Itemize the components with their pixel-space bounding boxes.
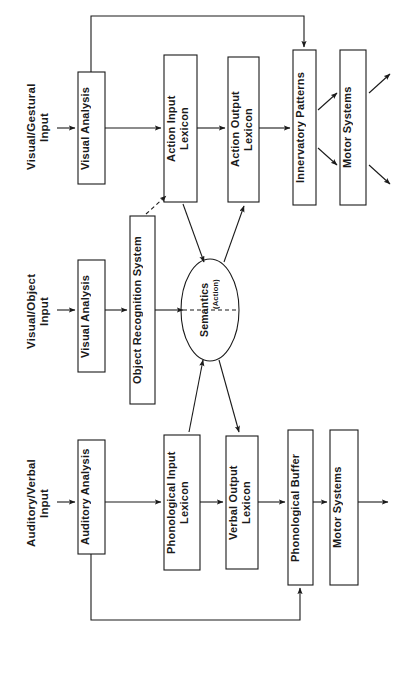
box-label-action-input-lexicon: Action Input Lexicon: [165, 56, 196, 201]
box-label-visual-analysis-gestural: Visual Analysis: [79, 73, 104, 183]
box-label-action-output-lexicon: Action Output Lexicon: [229, 58, 258, 201]
ellipse-label-semantics: Semantics: [198, 270, 212, 350]
box-label-motor-systems-top: Motor Systems: [341, 51, 365, 204]
input-label-visual-object: Visual/Object Input: [25, 236, 55, 386]
ellipse-sublabel-action: (Action): [212, 268, 223, 320]
input-label-visual-gestural: Visual/Gestural Input: [25, 52, 55, 202]
box-label-verbal-output-lexicon: Verbal Output Lexicon: [227, 437, 257, 568]
box-label-motor-systems-bottom: Motor Systems: [331, 431, 357, 584]
input-label-auditory-verbal: Auditory/Verbal Input: [25, 428, 55, 578]
box-label-phonological-buffer: Phonological Buffer: [289, 431, 312, 584]
box-label-phonological-input-lexicon: Phonological Input Lexicon: [165, 436, 199, 569]
box-label-visual-analysis-object: Visual Analysis: [79, 261, 104, 371]
diagram-canvas: Visual/Gestural Input Visual/Object Inpu…: [0, 0, 398, 673]
box-label-auditory-analysis: Auditory Analysis: [79, 441, 104, 553]
box-label-innervatory-patterns: Innervatory Patterns: [294, 51, 315, 204]
box-label-object-recognition-system: Object Recognition System: [131, 217, 154, 403]
